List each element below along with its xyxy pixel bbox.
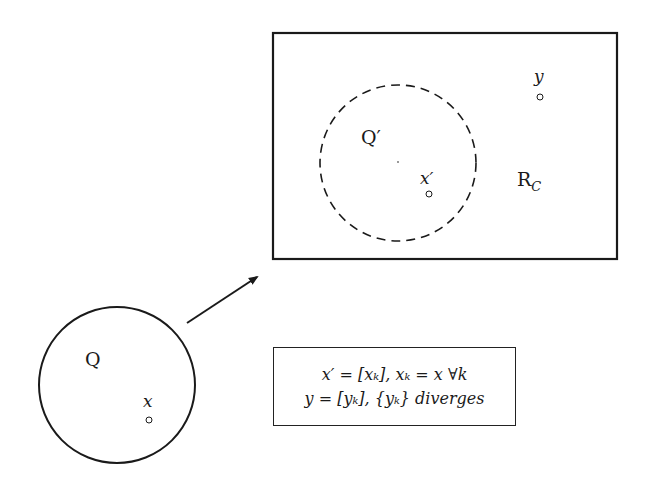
target-region-label: RC (517, 170, 541, 189)
source-region-label: Q (85, 350, 101, 369)
inner-region-label: Q′ (361, 128, 381, 147)
mapping-arrow (187, 277, 257, 323)
point-x-label: x (143, 393, 153, 410)
source-region-circle (39, 307, 195, 463)
inner-region-dashed-circle (320, 85, 476, 241)
point-y-marker (537, 94, 543, 100)
target-region-label-main: R (517, 168, 531, 190)
target-region-rect (273, 33, 617, 259)
point-x-prime-label: x′ (420, 170, 433, 187)
point-x-prime-marker (426, 191, 432, 197)
formula-line-1: x′ = [xₖ], xₖ = x ∀k (322, 363, 468, 387)
formula-line-2: y = [yₖ], {yₖ} diverges (305, 387, 485, 411)
center-dot (397, 161, 399, 163)
point-x-marker (146, 417, 152, 423)
point-y-label: y (534, 68, 544, 85)
formula-box: x′ = [xₖ], xₖ = x ∀k y = [yₖ], {yₖ} dive… (273, 347, 516, 426)
target-region-label-sub: C (531, 179, 541, 194)
